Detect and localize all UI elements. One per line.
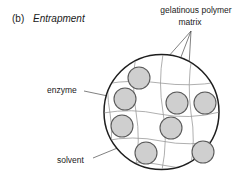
enzyme-particle [194, 92, 216, 114]
entrapment-diagram: (b) Entrapment gelatinous polymer matrix… [0, 0, 243, 179]
enzyme-particle [111, 115, 133, 137]
panel-letter: (b) [12, 13, 24, 24]
enzyme-particle [192, 141, 214, 163]
enzyme-particle [135, 142, 157, 164]
callout-enzyme: enzyme [47, 85, 77, 95]
callout-polymer-matrix-line2: matrix [178, 17, 202, 27]
callout-solvent: solvent [57, 155, 85, 165]
figure-title: Entrapment [33, 13, 86, 24]
callout-polymer-matrix-line1: gelatinous polymer [160, 5, 232, 15]
enzyme-particle [114, 88, 136, 110]
enzyme-particle [160, 117, 182, 139]
figure-panel: (b) Entrapment gelatinous polymer matrix… [0, 0, 243, 179]
enzyme-particle [128, 67, 150, 89]
enzyme-particle [166, 92, 188, 114]
